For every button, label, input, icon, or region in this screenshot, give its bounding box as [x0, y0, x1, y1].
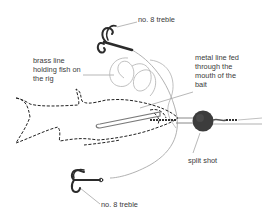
- leader-bottom-treble: [80, 188, 100, 204]
- label-metal-line: metal line fed through the mouth of the …: [195, 53, 239, 89]
- label-brass-line: brass line holding fish on the rig: [33, 56, 81, 83]
- label-top-treble: no. 8 treble: [138, 15, 175, 24]
- leader-metal-line: [140, 92, 193, 108]
- top-treble-hook: [98, 26, 132, 53]
- leader-top-treble: [117, 22, 137, 27]
- bottom-treble-hook: [72, 169, 103, 192]
- rig-illustration: [0, 0, 265, 220]
- label-bottom-treble: no. 8 treble: [101, 200, 138, 209]
- metal-line: [110, 50, 262, 178]
- fishing-rig-diagram: no. 8 treble brass line holding fish on …: [0, 0, 265, 220]
- split-shot: [176, 111, 262, 132]
- leader-split-shot: [193, 133, 200, 153]
- label-split-shot: split shot: [188, 156, 217, 165]
